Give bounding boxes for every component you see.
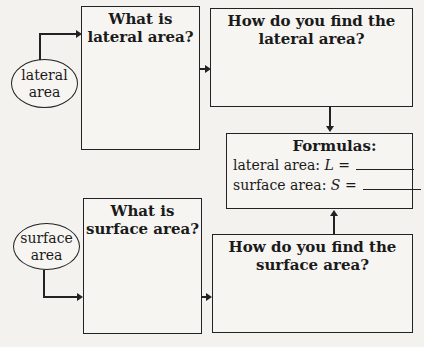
surface-area-oval: surfacearea (13, 223, 80, 270)
formula-eq: = (334, 157, 350, 173)
answer-blank[interactable] (356, 157, 414, 170)
formulas-title: Formulas: (257, 137, 412, 155)
formulas-box: Formulas: lateral area: L = surface area… (226, 133, 413, 209)
formula-eq: = (340, 177, 356, 193)
arrow-up-icon (330, 210, 338, 216)
what-is-lateral-area-box: What islateral area? (81, 6, 200, 150)
connector-line (39, 33, 77, 35)
connector-line (39, 33, 41, 60)
formula-var: L (325, 157, 334, 173)
answer-blank[interactable] (363, 177, 421, 190)
connector-line (43, 270, 45, 297)
box-title: What is (109, 10, 173, 28)
formula-row-lateral: lateral area: L = (233, 155, 412, 175)
oval-text: area (29, 84, 61, 100)
what-is-surface-area-box: What issurface area? (83, 198, 202, 334)
connector-line (329, 107, 331, 127)
how-find-lateral-area-box: How do you find thelateral area? (210, 8, 413, 107)
formula-var: S (331, 177, 341, 193)
how-find-surface-area-box: How do you find thesurface area? (212, 234, 413, 333)
box-title: What is (111, 202, 175, 220)
oval-text: lateral (21, 67, 67, 83)
lateral-area-oval: lateralarea (11, 59, 78, 108)
box-title: surface area? (86, 220, 199, 238)
box-title: lateral area? (87, 28, 193, 46)
formula-label: lateral area: (233, 157, 325, 173)
box-title: How do you find the (229, 238, 397, 256)
oval-text: area (31, 247, 63, 263)
box-title: lateral area? (258, 30, 364, 48)
arrow-down-icon (326, 126, 334, 132)
formula-label: surface area: (233, 177, 331, 193)
box-title: surface area? (256, 256, 369, 274)
oval-text: surface (20, 230, 73, 246)
box-title: How do you find the (228, 12, 396, 30)
connector-line (43, 296, 78, 298)
connector-line (333, 215, 335, 234)
formula-row-surface: surface area: S = (233, 175, 412, 195)
